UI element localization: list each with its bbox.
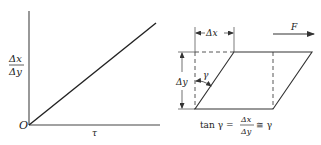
x-axis-label: τ (92, 128, 98, 138)
gamma-angle-arc (196, 81, 211, 86)
equation-lhs: tan γ = (200, 120, 233, 130)
y-axis-label-denominator: Δy (8, 66, 22, 77)
strain-vs-stress-graph: O τ Δx Δy (8, 11, 160, 138)
dx-label: Δx (205, 28, 218, 38)
shear-deformation-diagram: Δx Δy γ F tan γ = Δx Δy ≅ γ (175, 22, 314, 136)
gamma-label: γ (203, 70, 209, 80)
shear-strain-equation: tan γ = Δx Δy ≅ γ (200, 115, 272, 136)
linear-relation-line (29, 23, 156, 125)
y-axis-label-numerator: Δx (8, 53, 22, 64)
origin-label: O (19, 119, 28, 132)
dy-label: Δy (175, 77, 188, 87)
equation-numerator: Δx (240, 115, 252, 124)
equation-rhs: ≅ γ (256, 120, 272, 130)
force-label: F (290, 22, 298, 32)
shear-strain-figure: O τ Δx Δy Δx Δy γ F tan γ = Δ (0, 0, 321, 145)
equation-denominator: Δy (240, 127, 252, 136)
deformed-parallelogram (195, 52, 312, 109)
